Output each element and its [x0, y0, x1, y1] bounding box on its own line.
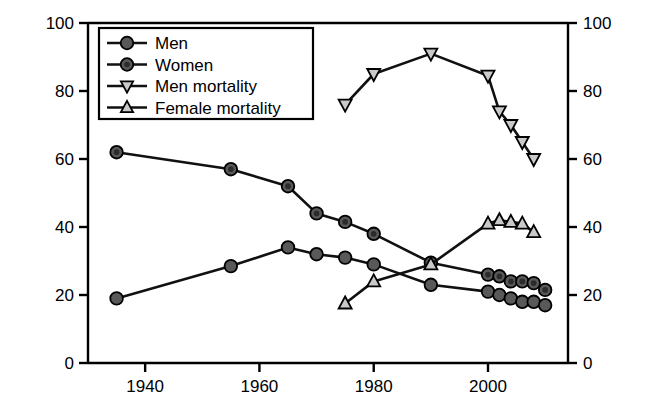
data-point-marker: [282, 241, 295, 254]
legend-label: Men: [155, 34, 188, 53]
y-tick-label-left: 80: [55, 82, 74, 101]
y-tick-label-right: 60: [583, 150, 602, 169]
data-point-marker-inner: [114, 149, 120, 155]
data-point-marker: [425, 279, 438, 292]
legend-marker-inner: [124, 62, 130, 68]
legend-box: MenWomenMen mortalityFemale mortality: [99, 28, 313, 119]
legend-label: Female mortality: [155, 99, 281, 118]
y-tick-label-right: 0: [583, 354, 592, 373]
data-point-marker-inner: [531, 280, 537, 286]
x-tick-label: 1940: [126, 377, 164, 396]
y-tick-label-left: 60: [55, 150, 74, 169]
chart-plot: 0204060801000204060801001940196019802000…: [0, 0, 655, 399]
chart-figure: Smoking Prevalence (%) Mortality Rate Pe…: [0, 0, 655, 399]
y-tick-label-left: 20: [55, 286, 74, 305]
data-point-marker-inner: [485, 272, 491, 278]
data-point-marker: [310, 248, 323, 261]
data-point-marker-inner: [497, 273, 503, 279]
x-tick-label: 2000: [469, 377, 507, 396]
data-point-marker-inner: [314, 211, 320, 217]
y-tick-label-right: 40: [583, 218, 602, 237]
x-tick-label: 1980: [355, 377, 393, 396]
data-point-marker-inner: [519, 279, 525, 285]
data-point-marker-inner: [228, 166, 234, 172]
data-point-marker-inner: [371, 231, 377, 237]
legend-label: Women: [155, 56, 213, 75]
y-tick-label-left: 40: [55, 218, 74, 237]
data-point-marker: [339, 251, 352, 264]
data-point-marker-inner: [285, 183, 291, 189]
data-point-marker: [539, 299, 552, 312]
data-point-marker-inner: [508, 279, 514, 285]
legend-label: Men mortality: [155, 77, 258, 96]
legend-marker: [121, 37, 134, 50]
y-tick-label-right: 80: [583, 82, 602, 101]
data-point-marker-inner: [342, 219, 348, 225]
y-tick-label-right: 20: [583, 286, 602, 305]
x-tick-label: 1960: [241, 377, 279, 396]
y-tick-label-left: 0: [65, 354, 74, 373]
y-tick-label-left: 100: [46, 14, 74, 33]
data-point-marker: [225, 260, 238, 273]
data-point-marker: [367, 258, 380, 271]
data-point-marker-inner: [542, 287, 548, 293]
y-tick-label-right: 100: [583, 14, 611, 33]
data-point-marker: [110, 292, 123, 305]
